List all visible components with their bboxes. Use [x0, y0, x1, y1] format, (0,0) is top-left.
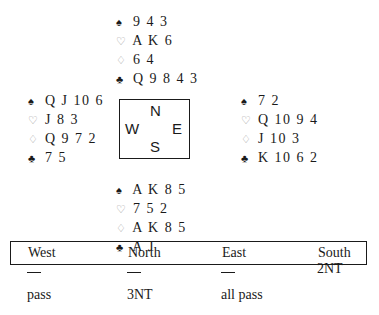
south-diamonds-cards: A K 8 5	[132, 220, 186, 235]
club-icon: ♣	[28, 149, 40, 168]
dash-icon	[127, 272, 141, 273]
auction-row: 2NT	[10, 266, 367, 286]
south-hearts: ♡ 7 5 2	[116, 199, 187, 218]
dash-icon	[27, 272, 41, 273]
south-spades: ♠ A K 8 5	[116, 180, 187, 199]
spade-icon: ♠	[116, 181, 128, 200]
club-icon: ♣	[241, 149, 253, 168]
heart-icon: ♡	[116, 200, 128, 219]
bid-north: 3NT	[127, 287, 153, 303]
club-icon: ♣	[116, 70, 128, 89]
west-spades: ♠ Q J 10 6	[28, 91, 104, 110]
north-hand: ♠ 9 4 3 ♡ A K 6 ♢ 6 4 ♣ Q 9 8 4 3	[116, 12, 199, 88]
bid-south: 2NT	[317, 261, 343, 277]
header-east: East	[222, 245, 246, 261]
header-north: North	[128, 245, 161, 261]
north-spades-cards: 9 4 3	[133, 14, 169, 29]
diamond-icon: ♢	[116, 219, 128, 238]
west-diamonds: ♢ Q 9 7 2	[28, 129, 104, 148]
bid-west: pass	[27, 287, 51, 303]
north-hearts: ♡ A K 6	[116, 31, 199, 50]
west-clubs: ♣ 7 5	[28, 148, 104, 167]
west-hand: ♠ Q J 10 6 ♡ J 8 3 ♢ Q 9 7 2 ♣ 7 5	[28, 91, 104, 167]
north-hearts-cards: A K 6	[132, 33, 173, 48]
compass-south: S	[150, 138, 160, 155]
east-clubs-cards: K 10 6 2	[258, 150, 319, 165]
diamond-icon: ♢	[116, 51, 128, 70]
east-spades-cards: 7 2	[258, 93, 280, 108]
east-hearts-cards: Q 10 9 4	[258, 112, 319, 127]
bid-west-dash	[27, 266, 41, 282]
bid-east-dash	[221, 266, 235, 282]
south-spades-cards: A K 8 5	[132, 182, 186, 197]
compass-north: N	[150, 102, 161, 119]
heart-icon: ♡	[28, 111, 40, 130]
compass-box: N W E S	[119, 99, 190, 159]
dash-icon	[221, 272, 235, 273]
south-diamonds: ♢ A K 8 5	[116, 218, 187, 237]
west-spades-cards: Q J 10 6	[45, 93, 104, 108]
north-clubs: ♣ Q 9 8 4 3	[116, 69, 199, 88]
north-diamonds: ♢ 6 4	[116, 50, 199, 69]
heart-icon: ♡	[116, 32, 128, 51]
east-clubs: ♣ K 10 6 2	[241, 148, 319, 167]
heart-icon: ♡	[241, 111, 253, 130]
east-hand: ♠ 7 2 ♡ Q 10 9 4 ♢ J 10 3 ♣ K 10 6 2	[241, 91, 319, 167]
auction-header: West North East South	[10, 241, 367, 265]
header-west: West	[28, 245, 56, 261]
auction-row: pass 3NT all pass	[10, 287, 367, 307]
compass-west: W	[125, 120, 139, 137]
compass-east: E	[172, 120, 182, 137]
diamond-icon: ♢	[241, 130, 253, 149]
west-hearts: ♡ J 8 3	[28, 110, 104, 129]
header-south: South	[318, 245, 351, 261]
bid-north-dash	[127, 266, 141, 282]
north-diamonds-cards: 6 4	[133, 52, 155, 67]
spade-icon: ♠	[116, 13, 128, 32]
spade-icon: ♠	[241, 92, 253, 111]
east-hearts: ♡ Q 10 9 4	[241, 110, 319, 129]
south-hearts-cards: 7 5 2	[133, 201, 169, 216]
east-diamonds-cards: J 10 3	[258, 131, 300, 146]
north-spades: ♠ 9 4 3	[116, 12, 199, 31]
west-clubs-cards: 7 5	[45, 150, 67, 165]
diamond-icon: ♢	[28, 130, 40, 149]
bid-east: all pass	[221, 287, 263, 303]
west-diamonds-cards: Q 9 7 2	[45, 131, 97, 146]
spade-icon: ♠	[28, 92, 40, 111]
north-clubs-cards: Q 9 8 4 3	[133, 71, 199, 86]
east-spades: ♠ 7 2	[241, 91, 319, 110]
west-hearts-cards: J 8 3	[45, 112, 79, 127]
east-diamonds: ♢ J 10 3	[241, 129, 319, 148]
